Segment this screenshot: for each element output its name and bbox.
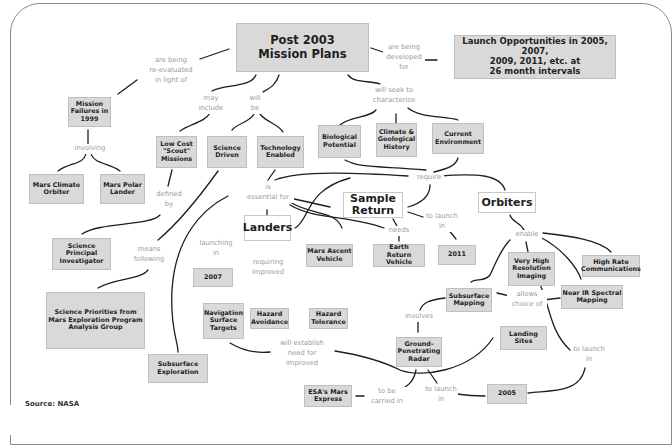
node-launch-opportunities: Launch Opportunities in 2005, 2007, 2009…	[454, 35, 616, 79]
label-to-launch-in-2011: to launch in	[425, 212, 459, 232]
label-needs: needs	[386, 226, 412, 236]
label-essential-for: is essential for	[242, 183, 294, 203]
node-low-cost-scout-missions: Low Cost "Scout" Missions	[156, 136, 197, 168]
node-current-environment: Current Environment	[432, 123, 484, 154]
node-subsurface-exploration: Subsurface Exploration	[148, 354, 208, 383]
label-launching-in: launching in	[197, 239, 235, 259]
node-technology-enabled: Technology Enabled	[257, 136, 304, 168]
node-2007: 2007	[193, 268, 233, 287]
node-science-driven: Science Driven	[207, 136, 247, 168]
node-science-priorities: Science Priorities from Mars Exploration…	[46, 292, 145, 349]
node-2011: 2011	[438, 245, 476, 265]
node-science-principal-investigator: Science Principal Investigator	[52, 238, 111, 270]
node-sample-return: Sample Return	[343, 192, 403, 218]
label-involves: involves	[403, 312, 435, 322]
label-defined-by: defined by	[153, 190, 185, 210]
node-esa-mars-express: ESA's Mars Express	[304, 385, 352, 407]
node-ground-penetrating-radar: Ground- Penetrating Radar	[396, 337, 442, 367]
node-landing-sites: Landing Sites	[500, 326, 547, 350]
node-climate-geological-history: Climate & Geological History	[376, 123, 417, 157]
label-to-launch-in-right: to launch in	[571, 345, 607, 365]
node-orbiters: Orbiters	[478, 192, 536, 213]
node-mars-polar-lander: Mars Polar Lander	[100, 174, 145, 204]
label-will-be: will be	[245, 94, 265, 114]
node-landers: Landers	[244, 215, 291, 241]
node-post-2003-mission-plans: Post 2003 Mission Plans	[236, 23, 369, 72]
label-to-be-carried: to be carried in	[367, 387, 407, 407]
label-will-establish: will establish need for improved	[274, 339, 330, 369]
label-allows-choice: allows choice of	[507, 290, 547, 310]
label-seek-characterize: will seek to characterize	[367, 86, 421, 106]
label-means-following: means following	[128, 245, 170, 265]
label-requiring-improved: requiring improved	[248, 258, 288, 278]
node-mission-failures-1999: Mission Failures in 1999	[68, 97, 111, 127]
node-2005: 2005	[487, 384, 527, 404]
node-very-high-resolution-imaging: Very High Resolution Imaging	[508, 252, 555, 286]
label-enable: enable	[512, 230, 542, 240]
node-biological-potential: Biological Potential	[318, 125, 361, 158]
node-earth-return-vehicle: Earth Return Vehicle	[373, 244, 425, 267]
label-involving: involving	[70, 144, 110, 154]
node-hazard-avoidance: Hazard Avoidance	[250, 308, 289, 329]
node-navigation-surface-targets: Navigation Surface Targets	[203, 303, 244, 339]
node-high-rate-communications: High Rate Communications	[582, 255, 640, 277]
node-hazard-tolerance: Hazard Tolerance	[309, 308, 348, 329]
label-being-developed: are being developed for	[383, 43, 425, 73]
node-mars-ascent-vehicle: Mars Ascent Vehicle	[306, 244, 353, 267]
node-near-ir-spectral-mapping: Near IR Spectral Mapping	[561, 285, 623, 309]
label-to-launch-in-2005: to launch in	[424, 385, 458, 405]
source-credit: Source: NASA	[25, 400, 79, 408]
node-mars-climate-orbiter: Mars Climate Orbiter	[29, 174, 84, 204]
node-subsurface-mapping: Subsurface Mapping	[446, 288, 492, 312]
label-may-include: may include	[195, 94, 227, 114]
label-re-evaluated: are being re-evaluated in light of	[143, 56, 199, 86]
label-require: require	[414, 173, 444, 183]
